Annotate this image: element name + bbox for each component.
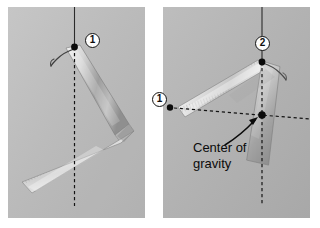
panel-left-photo xyxy=(8,7,145,218)
panel-suspension-point-2 xyxy=(163,7,310,218)
pivot-point-1 xyxy=(71,44,78,51)
figure-root: 1 xyxy=(0,0,320,228)
center-of-gravity-point xyxy=(258,111,266,119)
callout-badge-2: 2 xyxy=(255,36,270,51)
callout-badge-1: 1 xyxy=(85,33,100,48)
center-of-gravity-label-line2: gravity xyxy=(193,157,231,171)
pivot-point-1-transferred xyxy=(167,104,173,110)
panel-suspension-point-1 xyxy=(8,7,145,218)
callout-badge-1-repeat: 1 xyxy=(152,92,167,107)
center-of-gravity-label-line1: Center of xyxy=(193,141,246,155)
pivot-point-2 xyxy=(259,59,266,66)
panel-right-photo xyxy=(163,7,310,218)
